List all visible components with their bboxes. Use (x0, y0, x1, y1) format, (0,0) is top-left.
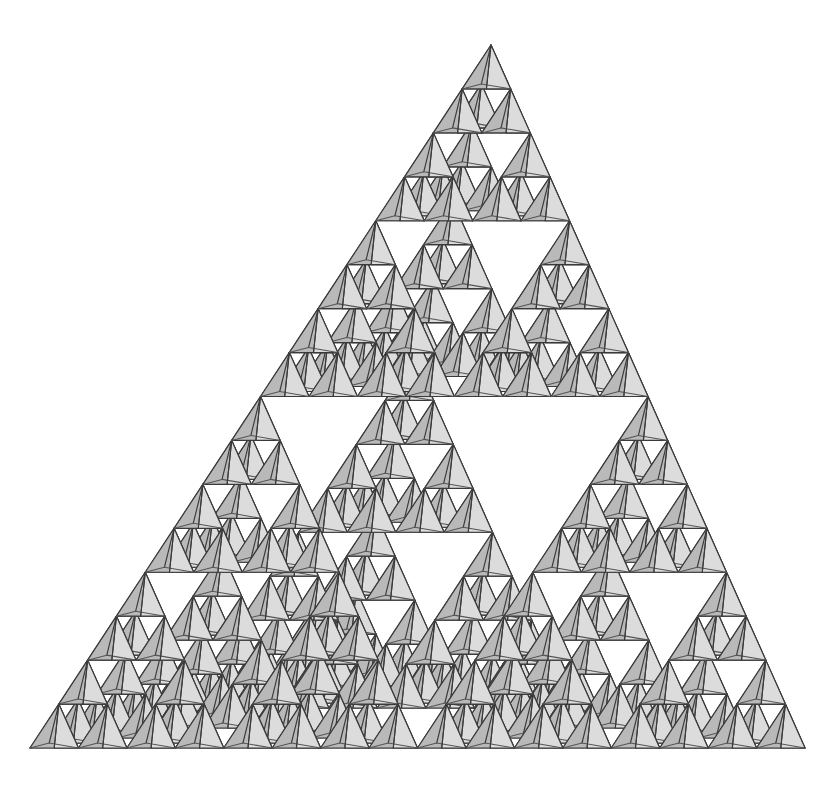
sierpinski-tetrahedron-figure (0, 0, 824, 786)
